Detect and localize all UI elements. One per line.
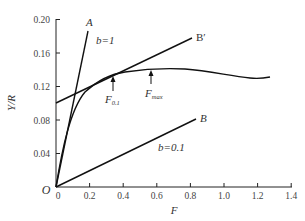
x-tick-labels: 0 0.2 0.4 0.6 0.8 1.0 1.2 1.4 [56, 191, 298, 201]
svg-text:0.08: 0.08 [33, 116, 50, 126]
line-b-prime [56, 38, 192, 103]
b1-annotation: b=1 [96, 34, 114, 46]
fmax-label: Fmax [144, 87, 163, 100]
svg-text:1.4: 1.4 [285, 191, 297, 201]
svg-text:0.2: 0.2 [84, 191, 96, 201]
y-ticks [56, 20, 60, 154]
svg-text:0.16: 0.16 [33, 49, 50, 59]
line-b-label: B [200, 112, 207, 124]
line-b [56, 119, 196, 187]
f01-label: F0.1 [104, 93, 120, 106]
x-ticks [90, 183, 292, 187]
b01-annotation: b=0.1 [158, 141, 185, 153]
svg-text:0.8: 0.8 [184, 191, 196, 201]
svg-text:0.4: 0.4 [117, 191, 129, 201]
line-b-prime-label: B′ [196, 31, 206, 43]
svg-text:0.04: 0.04 [33, 149, 50, 159]
y-axis-label: Y/R [5, 95, 17, 111]
svg-text:0.20: 0.20 [33, 15, 50, 25]
y-tick-labels: 0.04 0.08 0.12 0.16 0.20 [33, 15, 50, 159]
svg-text:0: 0 [56, 191, 61, 201]
origin-label: O [42, 183, 51, 197]
f01-marker: F0.1 [104, 76, 120, 106]
svg-text:0.12: 0.12 [33, 82, 50, 92]
fmax-marker: Fmax [144, 70, 163, 100]
arrow-up-icon [149, 70, 154, 76]
line-a-label: A [85, 16, 93, 28]
svg-text:0.6: 0.6 [151, 191, 163, 201]
yield-per-recruit-chart: 0.04 0.08 0.12 0.16 0.20 0 0.2 0.4 0.6 0… [0, 0, 305, 221]
svg-text:1.0: 1.0 [218, 191, 230, 201]
svg-text:1.2: 1.2 [252, 191, 264, 201]
x-axis-label: F [170, 204, 178, 216]
yield-curve [56, 69, 270, 187]
